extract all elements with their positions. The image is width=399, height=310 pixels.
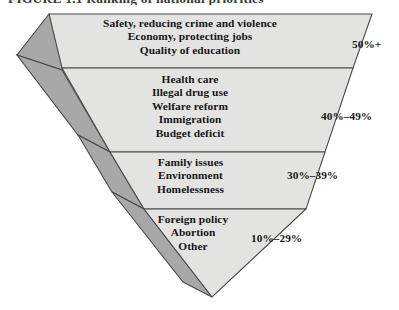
- band-item: Health care: [110, 73, 270, 86]
- percent-label-band-2: 40%–49%: [321, 110, 372, 122]
- percent-label-band-3: 30%–39%: [287, 169, 338, 181]
- percent-label-band-1: 50%+: [352, 38, 381, 50]
- band-item: Welfare reform: [110, 100, 270, 113]
- band-items-3: Family issues Environment Homelessness: [128, 156, 253, 196]
- band-item: Other: [143, 240, 243, 253]
- percent-label-band-4: 10%–29%: [251, 232, 302, 244]
- band-item: Abortion: [143, 226, 243, 239]
- band-item: Family issues: [128, 156, 253, 169]
- band-item: Homelessness: [128, 183, 253, 196]
- band-item: Foreign policy: [143, 213, 243, 226]
- band-item: Budget deficit: [110, 127, 270, 140]
- band-item: Safety, reducing crime and violence: [95, 17, 285, 30]
- band-item: Illegal drug use: [110, 86, 270, 99]
- inverted-pyramid-figure: FIGURE 1.1 Ranking of national prioritie…: [0, 0, 399, 310]
- band-items-2: Health care Illegal drug use Welfare ref…: [110, 73, 270, 140]
- band-item: Environment: [128, 169, 253, 182]
- band-item: Immigration: [110, 113, 270, 126]
- band-items-4: Foreign policy Abortion Other: [143, 213, 243, 253]
- band-item: Quality of education: [95, 44, 285, 57]
- band-items-1: Safety, reducing crime and violence Econ…: [95, 17, 285, 57]
- band-item: Economy, protecting jobs: [95, 30, 285, 43]
